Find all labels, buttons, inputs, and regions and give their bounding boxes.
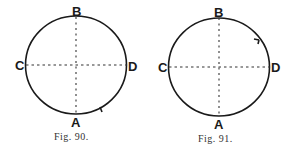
diagram-canvas xyxy=(0,0,291,150)
figure-90 xyxy=(26,16,128,114)
figure-91 xyxy=(169,18,271,116)
figure-caption: Fig. 91. xyxy=(198,134,233,144)
label-a: A xyxy=(214,118,223,131)
label-c: C xyxy=(158,61,167,74)
figure-caption: Fig. 90. xyxy=(54,132,89,142)
tick-mark xyxy=(254,39,259,44)
label-a: A xyxy=(71,116,80,129)
label-c: C xyxy=(15,59,24,72)
label-d: D xyxy=(271,61,280,74)
label-b: B xyxy=(72,5,81,18)
label-d: D xyxy=(128,60,137,73)
label-b: B xyxy=(214,6,223,19)
